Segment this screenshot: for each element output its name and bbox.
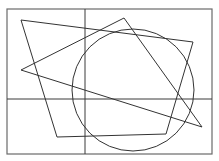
background xyxy=(0,0,219,161)
geometry-diagram xyxy=(0,0,219,161)
